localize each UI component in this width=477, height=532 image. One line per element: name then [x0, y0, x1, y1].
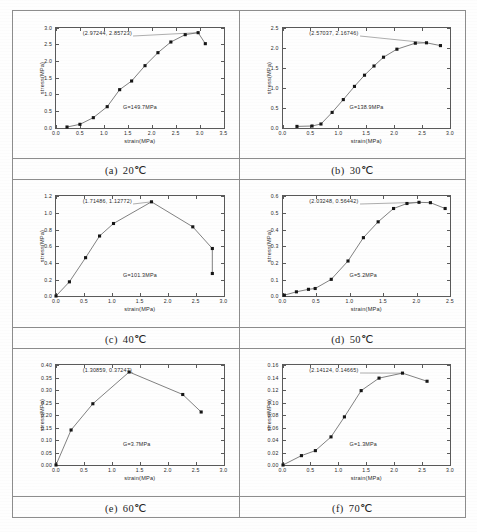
plot-a: 0.00.51.01.52.02.53.03.50.00.51.01.52.02… [13, 15, 239, 155]
x-tick-label-b: 2.0 [390, 130, 398, 136]
caption-b-label: (b) [331, 165, 344, 176]
x-tick-c [224, 196, 225, 199]
data-point-marker [181, 393, 184, 396]
data-point-marker [306, 288, 309, 291]
x-tick-d [450, 196, 451, 199]
y-tick-label-f: 0.00 [268, 462, 279, 468]
x-tick-label-c: 2.0 [164, 298, 172, 304]
y-tick-label-a: 2.0 [44, 58, 52, 64]
caption-a-text: 20℃ [123, 165, 147, 176]
plot-d: 0.00.51.01.52.02.50.00.10.20.30.40.50.6s… [240, 183, 466, 323]
data-series-d [283, 196, 451, 296]
x-tick-label-f: 1.5 [362, 467, 370, 473]
caption-b: (b)30℃ [331, 165, 373, 176]
y-tick-label-f: 0.02 [268, 450, 279, 456]
data-point-marker [295, 124, 298, 127]
data-point-marker [330, 110, 333, 113]
data-point-marker [169, 40, 172, 43]
y-tick-label-d: 0.0 [271, 293, 279, 299]
y-tick-b [283, 128, 286, 129]
data-point-marker [425, 380, 428, 383]
plot-b: 0.00.51.01.52.02.53.00.00.51.01.52.02.5s… [240, 15, 466, 155]
y-tick-label-e: 0.35 [41, 375, 52, 381]
x-tick-e [224, 462, 225, 465]
data-point-marker [381, 55, 384, 58]
caption-c-label: (c) [105, 334, 118, 345]
y-tick-label-b: 0.0 [271, 125, 279, 131]
x-tick-label-b: 3.0 [446, 130, 454, 136]
caption-row-3: (e)60℃ (f)70℃ [13, 496, 466, 517]
x-tick-label-e: 0.5 [80, 467, 88, 473]
caption-d-label: (d) [331, 334, 344, 345]
y-tick-label-d: 0.5 [271, 210, 279, 216]
data-point-marker [313, 287, 316, 290]
caption-cell-b: (b)30℃ [239, 159, 466, 180]
y-tick-e [221, 465, 224, 466]
x-tick-label-c: 0.5 [80, 298, 88, 304]
caption-f-label: (f) [332, 503, 344, 514]
y-tick-label-f: 0.14 [268, 375, 279, 381]
data-point-marker [443, 207, 446, 210]
x-tick-label-c: 1.5 [136, 298, 144, 304]
y-axis-label-a: stress(MPa) [39, 61, 45, 93]
x-tick-label-d: 2.5 [446, 298, 454, 304]
caption-cell-e: (e)60℃ [13, 496, 240, 517]
data-series-b [283, 28, 451, 128]
y-tick-label-a: 0.5 [44, 108, 52, 114]
x-axis-label-e: strain(MPa) [124, 475, 155, 481]
x-tick-label-c: 0.0 [52, 298, 60, 304]
data-point-marker [400, 372, 403, 375]
chart-row-3: 0.00.51.01.52.02.53.00.000.050.100.150.2… [13, 348, 466, 496]
x-tick-label-b: 1.5 [362, 130, 370, 136]
data-point-marker [346, 260, 349, 263]
chart-cell-a: 0.00.51.01.52.02.53.03.50.00.51.01.52.02… [13, 11, 240, 159]
caption-a: (a)20℃ [105, 165, 147, 176]
y-tick-b [447, 128, 450, 129]
x-tick-label-c: 2.5 [192, 298, 200, 304]
data-point-marker [130, 79, 133, 82]
data-point-marker [191, 226, 194, 229]
y-tick-label-e: 0.05 [41, 450, 52, 456]
data-point-marker [143, 64, 146, 67]
x-tick-label-d: 2.0 [413, 298, 421, 304]
data-point-marker [362, 73, 365, 76]
data-point-marker [310, 124, 313, 127]
data-point-marker [200, 411, 203, 414]
plot-f: 0.00.51.01.52.02.53.00.000.020.040.060.0… [240, 352, 466, 492]
peak-annotation-e: (1.30859, 0.37247) [83, 367, 132, 373]
y-axis-label-b: stress(MPa) [266, 61, 272, 93]
data-point-marker [150, 201, 153, 204]
y-tick-label-c: 0.6 [44, 243, 52, 249]
y-tick-label-a: 3.0 [44, 25, 52, 31]
y-tick-label-e: 0.00 [41, 462, 52, 468]
plot-e: 0.00.51.01.52.02.53.00.000.050.100.150.2… [13, 352, 239, 492]
x-tick-label-f: 2.5 [418, 467, 426, 473]
chart-cell-d: 0.00.51.01.52.02.50.00.10.20.30.40.50.6s… [239, 179, 466, 327]
data-point-marker [341, 98, 344, 101]
data-series-c [56, 196, 224, 296]
caption-c: (c)40℃ [105, 334, 147, 345]
data-point-marker [78, 122, 81, 125]
x-tick-label-f: 3.0 [446, 467, 454, 473]
chart-row-1: 0.00.51.01.52.02.53.03.50.00.51.01.52.02… [13, 11, 466, 159]
plot-frame-b: 0.00.51.01.52.02.53.00.00.51.01.52.02.5s… [283, 28, 451, 128]
y-tick-label-a: 2.5 [44, 41, 52, 47]
chart-cell-f: 0.00.51.01.52.02.53.00.000.020.040.060.0… [239, 348, 466, 496]
y-tick-label-b: 2.5 [271, 25, 279, 31]
data-point-marker [342, 416, 345, 419]
peak-annotation-c: (1.71486, 1.12772) [83, 198, 132, 204]
x-tick-label-d: 1.5 [379, 298, 387, 304]
x-tick-label-f: 2.0 [390, 467, 398, 473]
plot-frame-f: 0.00.51.01.52.02.53.00.000.020.040.060.0… [283, 365, 451, 465]
data-point-marker [329, 278, 332, 281]
peak-annotation-d: (2.03248, 0.56442) [309, 198, 358, 204]
x-tick-label-a: 1.0 [100, 130, 108, 136]
peak-annotation-f: (2.14124, 0.14665) [309, 367, 358, 373]
caption-e-text: 60℃ [123, 503, 147, 514]
y-tick-d [447, 296, 450, 297]
plot-frame-e: 0.00.51.01.52.02.53.00.000.050.100.150.2… [56, 365, 224, 465]
x-tick-label-f: 0.5 [307, 467, 315, 473]
y-tick-label-f: 0.12 [268, 387, 279, 393]
data-point-marker [92, 116, 95, 119]
data-series-e [56, 365, 224, 465]
